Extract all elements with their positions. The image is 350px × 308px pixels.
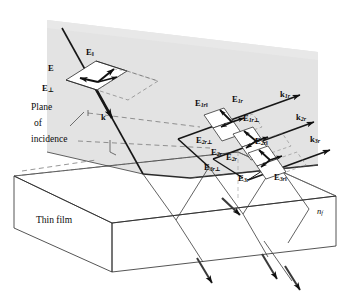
E2r-perpendicular-label: E2r⊥ <box>196 136 212 145</box>
E3r-parallel-label: E3r‖ <box>274 173 287 182</box>
E1r-perpendicular-label: E1r⊥ <box>243 114 259 123</box>
k1r-label: k1r <box>280 90 290 99</box>
E1rperp-subscript: 1r⊥ <box>249 117 260 123</box>
E3r-label: E3r <box>238 174 249 183</box>
thin-film-diagram: Plane of incidence Thin film nf E E‖ E⊥ … <box>0 0 350 308</box>
E1rpar-subscript: 1r‖ <box>201 102 208 108</box>
E1r-parallel-label: E1r‖ <box>195 99 208 108</box>
E2r-label: E2r <box>211 148 222 157</box>
E3rperp-subscript: 3r⊥ <box>210 166 221 172</box>
E2rpar-subscript: 2r‖ <box>261 140 268 146</box>
k3r-subscript: 3r <box>315 138 320 144</box>
incident-E-perpendicular-label: E⊥ <box>42 84 54 94</box>
E3rpar-subscript: 3r‖ <box>280 176 287 182</box>
E2r-subscript-lower: 2r <box>232 156 237 162</box>
E2r-parallel-label: E2r‖ <box>255 137 268 146</box>
E1r-subscript: 1r <box>238 98 243 104</box>
incident-E-parallel-label: E‖ <box>86 48 94 58</box>
film-refractive-index-label: nf <box>317 207 323 216</box>
E2r-subscript: 2r <box>217 151 222 157</box>
plane-of-incidence-surface <box>47 20 318 178</box>
thin-film-label: Thin film <box>36 216 72 226</box>
incident-E-label: E <box>48 64 54 73</box>
incident-k-label: k <box>101 113 106 122</box>
k3r-label: k3r <box>310 135 320 144</box>
E-par-subscript: ‖ <box>92 50 94 57</box>
plane-of-incidence-label-line3: incidence <box>31 135 67 145</box>
diagram-canvas <box>0 0 350 308</box>
k2r-subscript: 2r <box>301 116 306 122</box>
E3r-subscript: 3r <box>244 177 249 183</box>
E2r-label-lower: E2r <box>226 153 237 162</box>
plane-of-incidence-label-line1: Plane <box>31 103 52 113</box>
E1r-label: E1r <box>232 95 243 104</box>
n-subscript: f <box>321 210 323 216</box>
E2rperp-subscript: 2r⊥ <box>202 139 213 145</box>
thin-film-slab <box>14 152 336 272</box>
k1r-subscript: 1r <box>285 93 290 99</box>
k2r-label: k2r <box>296 113 306 122</box>
plane-of-incidence-label-line2: of <box>34 119 42 129</box>
E3r-perpendicular-label: E3r⊥ <box>204 163 220 172</box>
E-perp-subscript: ⊥ <box>48 86 54 93</box>
